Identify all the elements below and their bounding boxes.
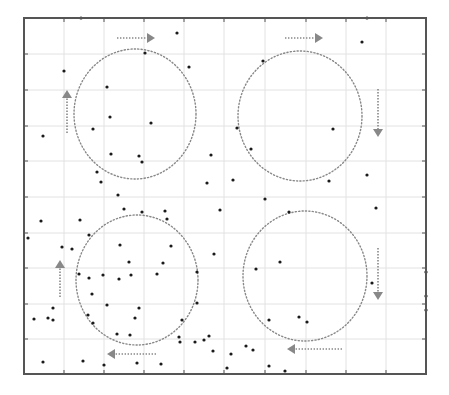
data-point xyxy=(261,59,264,62)
data-point xyxy=(102,363,105,366)
data-point xyxy=(137,306,140,309)
vortex-scatter-diagram xyxy=(0,0,449,395)
data-point xyxy=(105,85,108,88)
data-point xyxy=(91,127,94,130)
data-point xyxy=(109,152,112,155)
data-point xyxy=(118,243,121,246)
data-point xyxy=(128,333,131,336)
data-point xyxy=(32,317,35,320)
data-point xyxy=(195,270,198,273)
data-point xyxy=(101,273,104,276)
arrow-head-icon xyxy=(287,344,295,354)
data-point xyxy=(231,178,234,181)
plot-frame xyxy=(24,18,426,374)
data-point xyxy=(249,147,252,150)
data-point xyxy=(51,306,54,309)
top-right-right-arrow xyxy=(285,33,323,43)
data-point xyxy=(105,303,108,306)
data-point xyxy=(370,281,373,284)
data-point xyxy=(374,206,377,209)
data-point xyxy=(244,344,247,347)
data-point xyxy=(46,316,49,319)
data-point xyxy=(122,207,125,210)
grid-lines xyxy=(24,18,426,374)
frame-border xyxy=(24,18,426,374)
data-point xyxy=(178,340,181,343)
data-point xyxy=(229,352,232,355)
data-point xyxy=(297,315,300,318)
data-point xyxy=(62,69,65,72)
data-point xyxy=(175,31,178,34)
data-point xyxy=(205,181,208,184)
bottom-left-left-arrow xyxy=(107,349,156,359)
data-point xyxy=(187,65,190,68)
arrow-head-icon xyxy=(107,349,115,359)
data-point xyxy=(305,320,308,323)
data-point xyxy=(116,193,119,196)
data-point xyxy=(169,244,172,247)
circle-bottom-right xyxy=(243,211,367,341)
data-point xyxy=(60,245,63,248)
arrow-head-icon xyxy=(373,129,383,137)
arrow-head-icon xyxy=(315,33,323,43)
data-point xyxy=(225,366,228,369)
data-point xyxy=(327,179,330,182)
data-point xyxy=(155,272,158,275)
data-point xyxy=(95,170,98,173)
plot-area xyxy=(0,0,449,395)
data-point xyxy=(140,160,143,163)
data-point xyxy=(331,127,334,130)
data-point xyxy=(212,252,215,255)
arrow-head-icon xyxy=(373,292,383,300)
data-point xyxy=(91,321,94,324)
data-point xyxy=(287,210,290,213)
data-point xyxy=(202,338,205,341)
scatter-points xyxy=(26,16,427,372)
data-point xyxy=(81,359,84,362)
data-point xyxy=(115,332,118,335)
data-point xyxy=(267,318,270,321)
data-point xyxy=(159,362,162,365)
data-point xyxy=(41,360,44,363)
data-point xyxy=(207,334,210,337)
data-point xyxy=(99,180,102,183)
data-point xyxy=(365,173,368,176)
data-point xyxy=(26,236,29,239)
circle-bottom-left xyxy=(76,215,198,345)
data-point xyxy=(78,218,81,221)
data-point xyxy=(165,217,168,220)
data-point xyxy=(278,260,281,263)
data-point xyxy=(195,301,198,304)
data-point xyxy=(90,292,93,295)
data-point xyxy=(41,134,44,137)
data-point xyxy=(70,247,73,250)
data-point xyxy=(267,364,270,367)
data-point xyxy=(218,208,221,211)
data-point xyxy=(133,316,136,319)
data-point xyxy=(177,335,180,338)
data-point xyxy=(86,313,89,316)
data-point xyxy=(193,340,196,343)
data-point xyxy=(140,210,143,213)
data-point xyxy=(161,261,164,264)
data-point xyxy=(235,126,238,129)
top-left-right-arrow xyxy=(117,33,155,43)
data-point xyxy=(127,260,130,263)
data-point xyxy=(143,51,146,54)
data-point xyxy=(180,318,183,321)
data-point xyxy=(283,369,286,372)
data-point xyxy=(87,276,90,279)
data-point xyxy=(254,267,257,270)
circle-top-left xyxy=(74,49,196,179)
data-point xyxy=(129,273,132,276)
data-point xyxy=(163,209,166,212)
data-point xyxy=(137,154,140,157)
top-right-down-arrow xyxy=(373,89,383,137)
data-point xyxy=(51,318,54,321)
data-point xyxy=(87,233,90,236)
arrow-head-icon xyxy=(147,33,155,43)
data-point xyxy=(360,40,363,43)
bottom-right-left-arrow xyxy=(287,344,342,354)
data-point xyxy=(77,272,80,275)
data-point xyxy=(263,197,266,200)
